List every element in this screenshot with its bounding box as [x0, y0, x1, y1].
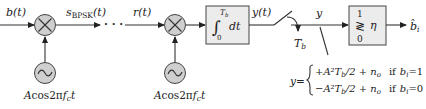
- equation-case-2: −A²Tb/2 + noifbi=0: [315, 83, 423, 96]
- decision-bottom-label: 0: [357, 34, 363, 44]
- received-signal-label: r(t): [133, 6, 151, 19]
- comparator-symbol: ≷: [355, 19, 365, 33]
- equation-case-1: +A²Tb/2 + noifbi=1: [315, 66, 423, 79]
- modulator-mixer: [35, 15, 56, 36]
- sample-label: y: [315, 7, 323, 20]
- integrand: dt: [229, 20, 241, 33]
- bpsk-block-diagram: b(t) Acos2πfct sBPSK(t) · · · r(t) Acos2…: [0, 0, 426, 109]
- sample-equation: y= +A²Tb/2 + noifbi=1 −A²Tb/2 + noifbi=0: [289, 65, 423, 96]
- equation-lhs: y=: [289, 75, 305, 87]
- integrator-block: ∫ Tb 0 dt: [206, 6, 249, 44]
- cases-brace: [307, 65, 313, 95]
- modulator-oscillator: [35, 63, 56, 84]
- demodulator-carrier-label: Acos2πfct: [153, 89, 206, 103]
- sampler-switch: [274, 11, 298, 31]
- transmitted-signal-label: sBPSK(t): [66, 6, 106, 20]
- decision-block: 1 ≷ 0 η: [349, 6, 386, 45]
- threshold-label: η: [370, 19, 377, 32]
- sampling-instant-label: Tb: [294, 37, 306, 51]
- sampling-arrow: [287, 17, 298, 31]
- integral-lower-limit: 0: [217, 34, 221, 42]
- demodulator-oscillator: [165, 63, 186, 84]
- equation-pointer: [320, 27, 328, 55]
- modulator-carrier-label: Acos2πfct: [23, 89, 76, 103]
- decision-top-label: 1: [357, 9, 363, 19]
- input-signal-label: b(t): [6, 6, 26, 19]
- integrator-output-label: y(t): [251, 6, 271, 19]
- channel-ellipsis: · · ·: [104, 18, 123, 31]
- demodulator-mixer: [165, 15, 186, 36]
- decision-output-label: b̂i: [410, 19, 420, 34]
